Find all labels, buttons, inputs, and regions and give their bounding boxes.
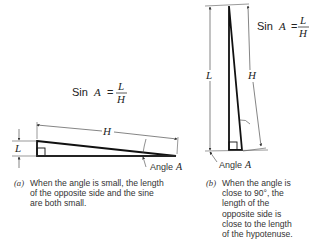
angle-label-b-var: A [244,159,252,170]
caption-b-line: of the hypotenuse. [222,229,293,239]
formula-b: Sin A = L H [257,14,309,39]
right-angle-mark-a [37,148,45,156]
caption-a-line: of the opposite side and the sine [30,188,164,198]
angle-pointer-a [143,157,146,167]
formula-a: Sin A = L H [72,80,127,105]
formula-b-var: A [278,20,286,32]
figure-a: Sin A = L H L H Angle A [12,80,183,172]
label-hypotenuse-a: H [102,125,112,137]
formula-a-prefix: Sin [72,86,88,98]
angle-arc-a [143,139,146,153]
caption-b-line: close to 90°, the [222,188,293,198]
label-opposite-a: L [14,142,21,154]
formula-a-denominator: H [116,93,126,105]
label-opposite-b: L [205,69,212,81]
angle-arc-b [240,120,250,124]
dimension-line-h-bottom-b [253,82,261,146]
caption-b-line: length of the [222,198,293,208]
formula-b-equals: = [291,20,297,32]
formula-b-prefix: Sin [257,20,273,32]
formula-b-denominator: H [298,27,308,39]
extension-line-h-bottom-b [243,148,266,151]
extension-line-h-right-a [177,137,178,154]
label-hypotenuse-b: H [247,69,257,81]
dimension-line-h-left-a [37,125,102,131]
formula-a-equals: = [107,86,113,98]
angle-label-a-var: A [175,161,183,172]
triangle-a [37,141,176,156]
caption-a-tag: (a) [14,178,24,188]
dimension-line-h-top-b [248,6,250,70]
caption-b-line: opposite side is [222,209,293,219]
angle-pointer-b [210,152,217,162]
angle-label-a: Angle [150,162,173,172]
figure-b: Sin A = L H L H Angle A [205,4,309,170]
right-angle-mark-b [229,142,237,150]
caption-a-line: are both small. [30,198,164,208]
dimension-line-h-right-a [114,132,177,139]
caption-b-line: close to the length [222,219,293,229]
caption-b-tag: (b) [206,178,216,188]
angle-label-b: Angle [219,160,242,170]
formula-b-numerator: L [299,14,306,26]
caption-a-line: When the angle is small, the length [30,178,164,188]
triangle-b [229,6,242,150]
extension-line-top-b [205,4,249,6]
formula-a-var: A [93,86,101,98]
caption-b-line: When the angle is [222,178,293,188]
formula-a-numerator: L [117,80,124,92]
